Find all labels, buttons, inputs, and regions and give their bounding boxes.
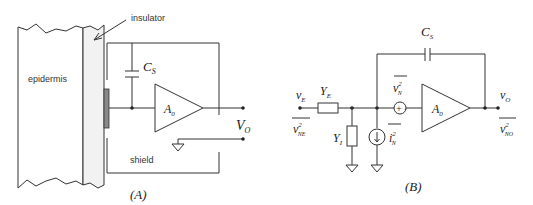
- panel-a: epidermis insulator shield CS A0 VO (: [18, 13, 251, 202]
- shield-label: shield: [130, 155, 154, 165]
- output-terminal-b: [496, 106, 500, 110]
- figure-canvas: epidermis insulator shield CS A0 VO (: [0, 0, 533, 205]
- vne-label: v2NE: [293, 121, 306, 137]
- yi-label: YI: [333, 131, 343, 147]
- output-terminal: [241, 106, 245, 110]
- ground-icon: [172, 144, 184, 151]
- insulator-label: insulator: [131, 13, 165, 23]
- junction-dot-out: [483, 106, 487, 110]
- vo-label: VO: [236, 118, 251, 135]
- amplifier-a0-b: [422, 84, 470, 132]
- ye-label: YE: [320, 84, 332, 100]
- vn-label: v2N: [393, 80, 403, 96]
- ground-icon: [346, 165, 358, 172]
- ve-label: vE: [296, 88, 306, 104]
- electrode-plate: [104, 89, 109, 128]
- vo-label-b: vO: [500, 88, 510, 104]
- ground-terminal: [241, 137, 245, 141]
- panel-b-caption: (B): [405, 179, 422, 194]
- cs-label: CS: [143, 59, 156, 76]
- ye-admittance: [318, 103, 338, 113]
- epidermis-label: epidermis: [28, 74, 68, 84]
- epidermis-shape: [18, 24, 83, 188]
- cs-label-b: CS: [421, 24, 434, 41]
- amplifier-a0: [155, 84, 203, 132]
- ground-icon: [371, 165, 383, 172]
- insulator-layer: [83, 25, 104, 188]
- plus-minus-icon: + -: [396, 105, 407, 113]
- yi-admittance: [347, 126, 357, 146]
- junction-dot: [130, 106, 134, 110]
- vno-label: v2NO: [500, 121, 514, 137]
- panel-b: vE v2NE YE YI i2N CS + -: [292, 24, 516, 194]
- in-label: i2N: [389, 130, 397, 146]
- panel-a-caption: (A): [130, 187, 147, 202]
